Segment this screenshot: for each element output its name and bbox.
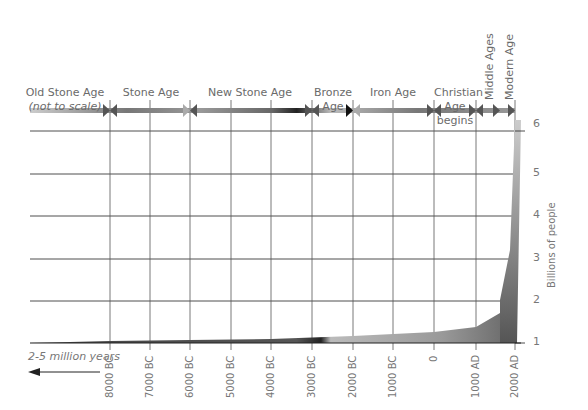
y-tick: 3: [533, 251, 540, 264]
x-tick: 0: [428, 356, 439, 362]
x-tick: 7000 BC: [144, 356, 155, 398]
y-axis-label: Billions of people: [546, 202, 557, 288]
x-tick: 4000 BC: [265, 356, 276, 398]
v-gridlines: [110, 100, 515, 350]
x-tick: 1000 AD: [470, 355, 481, 398]
era-stone-age: Stone Age: [120, 86, 182, 100]
era-label: Bronze: [312, 86, 354, 100]
x-tick: 5000 BC: [225, 356, 236, 398]
era-label: Age: [312, 100, 354, 114]
y-tick: 5: [533, 166, 540, 179]
y-tick: 6: [533, 117, 540, 130]
era-sublabel: (not to scale): [29, 100, 102, 113]
x-tick: 1000 BC: [387, 356, 398, 398]
x-tick: 2000 AD: [509, 355, 520, 398]
x-tick: 2000 BC: [347, 356, 358, 398]
era-label: begins: [434, 114, 476, 128]
population-spike: [500, 120, 521, 343]
era-label: Christian: [434, 86, 476, 100]
era-modern-age: Modern Age: [503, 34, 517, 100]
y-tick: 2: [533, 293, 540, 306]
left-arrow-icon: [28, 368, 40, 376]
era-label: Old Stone Age: [25, 86, 105, 100]
era-old-stone-age: Old Stone Age (not to scale): [25, 86, 105, 114]
era-christian-age: Christian Age begins: [434, 86, 476, 128]
population-area: [30, 300, 515, 343]
era-bronze-age: Bronze Age: [312, 86, 354, 114]
x-tick: 3000 BC: [306, 356, 317, 398]
era-new-stone-age: New Stone Age: [200, 86, 300, 100]
y-tick: 4: [533, 208, 540, 221]
era-iron-age: Iron Age: [360, 86, 426, 100]
era-label: Age: [434, 100, 476, 114]
y-tick: 1: [533, 335, 540, 348]
era-middle-ages: Middle Ages: [483, 33, 497, 100]
x-tick: 8000 BC: [104, 356, 115, 398]
h-gridlines: [30, 131, 514, 301]
chart-canvas: [0, 0, 588, 410]
x-tick: 6000 BC: [184, 356, 195, 398]
